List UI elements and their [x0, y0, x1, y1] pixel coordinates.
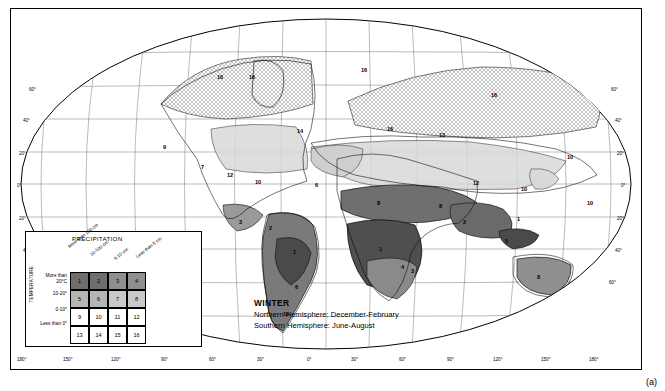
legend-cell-13: 13	[70, 326, 89, 344]
legend-cell-3: 3	[108, 272, 127, 290]
svg-text:16: 16	[387, 126, 393, 132]
svg-text:150°: 150°	[63, 357, 73, 362]
svg-text:2: 2	[269, 225, 272, 231]
svg-text:16: 16	[361, 67, 367, 73]
svg-text:6: 6	[295, 284, 298, 290]
svg-text:10: 10	[567, 154, 573, 160]
svg-text:3: 3	[411, 268, 414, 274]
legend-cell-8: 8	[127, 290, 146, 308]
svg-text:1: 1	[517, 216, 520, 222]
svg-text:30°: 30°	[257, 357, 264, 362]
svg-text:60°: 60°	[29, 87, 36, 92]
southern-hemisphere-months: Southern Hemisphere: June-August	[254, 321, 375, 330]
svg-text:16: 16	[491, 92, 497, 98]
precip-col-3-label: Less than 5 cm	[135, 236, 163, 259]
temp-row-2-label: 0-10°	[37, 307, 67, 313]
svg-text:60°: 60°	[399, 357, 406, 362]
legend-cell-grid: 1234 5678 9101112 13141516	[70, 272, 146, 344]
svg-text:120°: 120°	[111, 357, 121, 362]
svg-text:10: 10	[521, 186, 527, 192]
svg-text:6: 6	[315, 182, 318, 188]
legend-cell-7: 7	[108, 290, 127, 308]
svg-text:20°: 20°	[19, 216, 26, 221]
svg-text:0°: 0°	[621, 183, 626, 188]
legend-cell-2: 2	[89, 272, 108, 290]
svg-text:40°: 40°	[615, 248, 622, 253]
svg-text:1: 1	[293, 249, 296, 255]
svg-text:8: 8	[439, 203, 442, 209]
svg-text:7: 7	[201, 164, 204, 170]
svg-text:90°: 90°	[447, 357, 454, 362]
temp-row-1-label: 10-20°	[37, 291, 67, 297]
precip-col-2-label: 5-10 cm	[113, 247, 129, 261]
legend-cell-14: 14	[89, 326, 108, 344]
svg-text:20°: 20°	[617, 216, 624, 221]
svg-text:40°: 40°	[615, 118, 622, 123]
svg-text:20°: 20°	[617, 151, 624, 156]
svg-text:14: 14	[297, 128, 304, 134]
svg-text:60°: 60°	[609, 280, 616, 285]
northern-hemisphere-months: Northern Hemisphere: December-February	[254, 310, 399, 319]
svg-text:0°: 0°	[17, 183, 22, 188]
figure-corner-label: (a)	[646, 377, 657, 387]
legend-cell-1: 1	[70, 272, 89, 290]
season-title: WINTER	[254, 298, 289, 308]
svg-text:2: 2	[463, 219, 466, 225]
legend-box: PRECIPITATION More than 100 cm 10-100 cm…	[25, 231, 202, 347]
svg-text:1: 1	[379, 246, 382, 252]
temp-row-0-label: More than 20°C	[37, 273, 67, 285]
season-caption: WINTER Northern Hemisphere: December-Feb…	[254, 298, 399, 331]
svg-text:60°: 60°	[611, 87, 618, 92]
svg-text:10: 10	[587, 200, 593, 206]
svg-text:60°: 60°	[209, 357, 216, 362]
svg-text:8: 8	[377, 200, 380, 206]
svg-text:150°: 150°	[541, 357, 551, 362]
svg-text:9: 9	[163, 144, 166, 150]
svg-text:120°: 120°	[493, 357, 503, 362]
svg-text:5: 5	[505, 238, 508, 244]
precip-col-1-label: 10-100 cm	[89, 240, 109, 257]
svg-text:12: 12	[473, 180, 479, 186]
figure-root: 16 16 16 16 16 14 13 12 10 12 10 8 8 6 2…	[0, 0, 665, 391]
temp-row-3-label: Less than 0°	[37, 321, 67, 327]
legend-cell-15: 15	[108, 326, 127, 344]
svg-text:12: 12	[227, 172, 233, 178]
svg-text:90°: 90°	[161, 357, 168, 362]
legend-cell-5: 5	[70, 290, 89, 308]
svg-text:10: 10	[255, 179, 261, 185]
svg-text:3: 3	[239, 219, 242, 225]
svg-text:8: 8	[537, 274, 540, 280]
svg-text:180°: 180°	[17, 357, 27, 362]
svg-text:30°: 30°	[351, 357, 358, 362]
legend-cell-10: 10	[89, 308, 108, 326]
svg-text:16: 16	[217, 74, 223, 80]
map-frame: 16 16 16 16 16 14 13 12 10 12 10 8 8 6 2…	[10, 8, 642, 370]
legend-cell-9: 9	[70, 308, 89, 326]
legend-cell-4: 4	[127, 272, 146, 290]
legend-cell-16: 16	[127, 326, 146, 344]
legend-cell-11: 11	[108, 308, 127, 326]
legend-cell-6: 6	[89, 290, 108, 308]
svg-text:0°: 0°	[307, 357, 312, 362]
svg-text:16: 16	[249, 74, 255, 80]
svg-text:13: 13	[439, 132, 445, 138]
svg-text:180°: 180°	[589, 357, 599, 362]
legend-cell-12: 12	[127, 308, 146, 326]
temperature-axis-label: TEMPERATURE	[29, 266, 37, 303]
svg-text:40°: 40°	[23, 118, 30, 123]
svg-text:20°: 20°	[19, 151, 26, 156]
